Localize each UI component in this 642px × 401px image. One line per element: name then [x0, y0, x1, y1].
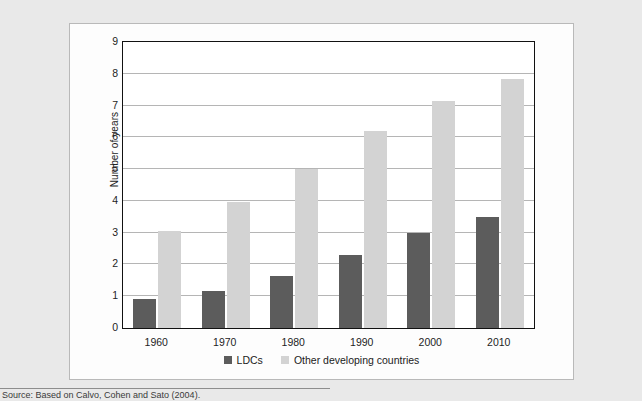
bar — [202, 291, 225, 328]
source-divider — [0, 388, 330, 389]
bar — [270, 276, 293, 328]
bar — [295, 169, 318, 328]
bar — [501, 79, 524, 328]
legend-swatch-icon — [224, 356, 232, 364]
y-tick-label: 8 — [98, 68, 118, 79]
chart-legend: LDCsOther developing countries — [70, 354, 573, 366]
bar — [158, 231, 181, 328]
bar — [133, 299, 156, 328]
y-tick-label: 7 — [98, 100, 118, 111]
plot-area — [122, 41, 535, 329]
bar — [476, 217, 499, 328]
y-tick-label: 0 — [98, 322, 118, 333]
gridline — [123, 136, 534, 137]
bar — [339, 255, 362, 328]
y-tick-label: 5 — [98, 163, 118, 174]
legend-item: Other developing countries — [281, 354, 420, 366]
bar — [364, 131, 387, 328]
gridline — [123, 295, 534, 296]
legend-label: Other developing countries — [294, 354, 420, 366]
x-tick-label: 1970 — [190, 336, 260, 348]
y-tick-label: 9 — [98, 36, 118, 47]
legend-label: LDCs — [237, 354, 263, 366]
x-tick-label: 2000 — [395, 336, 465, 348]
y-tick-label: 1 — [98, 290, 118, 301]
gridline — [123, 168, 534, 169]
source-note: Source: Based on Calvo, Cohen and Sato (… — [2, 390, 402, 401]
gridline — [123, 105, 534, 106]
figure-background: Number of years 0123456789 1960197019801… — [0, 0, 642, 401]
x-axis-tick-labels: 196019701980199020002010 — [122, 332, 535, 348]
x-tick-label: 1980 — [258, 336, 328, 348]
legend-swatch-icon — [281, 356, 289, 364]
y-axis-tick-labels: 0123456789 — [92, 41, 118, 329]
gridline — [123, 232, 534, 233]
x-tick-label: 1990 — [327, 336, 397, 348]
y-tick-label: 3 — [98, 227, 118, 238]
x-tick-label: 2010 — [464, 336, 534, 348]
bar — [407, 233, 430, 328]
chart-panel: Number of years 0123456789 1960197019801… — [69, 23, 574, 380]
y-tick-label: 4 — [98, 195, 118, 206]
legend-item: LDCs — [224, 354, 263, 366]
y-tick-label: 2 — [98, 258, 118, 269]
bar — [432, 101, 455, 328]
bar — [227, 202, 250, 328]
y-tick-label: 6 — [98, 131, 118, 142]
gridline — [123, 200, 534, 201]
gridline — [123, 73, 534, 74]
x-tick-label: 1960 — [121, 336, 191, 348]
gridline — [123, 263, 534, 264]
